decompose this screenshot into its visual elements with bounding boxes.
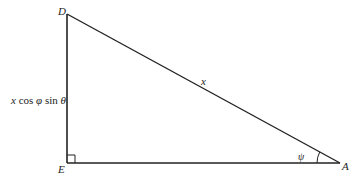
side-label-de-sin: sin bbox=[42, 94, 60, 106]
side-label-de-theta: θ bbox=[61, 94, 67, 106]
side-label-de: x cos φ sin θ bbox=[10, 94, 67, 106]
angle-label-psi: ψ bbox=[298, 151, 305, 162]
side-da-hypotenuse bbox=[67, 14, 340, 163]
side-label-x: x bbox=[200, 75, 206, 87]
right-angle-marker bbox=[67, 155, 75, 163]
angle-arc-psi bbox=[317, 152, 320, 163]
side-label-de-cos: cos bbox=[16, 94, 36, 106]
vertex-label-e: E bbox=[57, 163, 65, 175]
vertex-label-d: D bbox=[57, 5, 66, 17]
triangle-diagram: D E A x ψ x cos φ sin θ bbox=[0, 0, 356, 178]
vertex-label-a: A bbox=[341, 160, 349, 172]
